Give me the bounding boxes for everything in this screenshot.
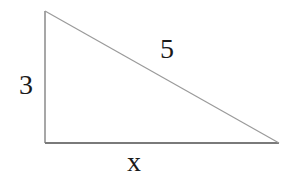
triangle-svg [0,0,295,178]
triangle-diagram: 3 5 x [0,0,295,178]
vertical-leg-label: 3 [19,71,33,99]
horizontal-leg-label: x [127,148,141,176]
hypotenuse [45,11,279,143]
hypotenuse-label: 5 [160,35,174,63]
